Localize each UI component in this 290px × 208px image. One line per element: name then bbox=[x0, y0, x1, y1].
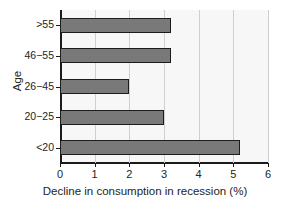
y-tick-label: 20−25 bbox=[25, 111, 55, 122]
y-tick-mark bbox=[56, 117, 60, 118]
bar bbox=[60, 18, 171, 33]
bar bbox=[60, 110, 164, 125]
x-tick-mark bbox=[199, 163, 200, 167]
x-tick-label: 6 bbox=[253, 168, 283, 180]
bar bbox=[60, 48, 171, 63]
x-tick-label: 4 bbox=[184, 168, 214, 180]
x-tick-mark bbox=[60, 163, 61, 167]
y-tick-mark bbox=[56, 25, 60, 26]
y-tick-mark bbox=[56, 148, 60, 149]
y-tick-label: 46−55 bbox=[25, 50, 55, 61]
gridline bbox=[268, 10, 269, 163]
bar bbox=[60, 79, 129, 94]
x-tick-mark bbox=[164, 163, 165, 167]
x-tick-label: 0 bbox=[45, 168, 75, 180]
x-tick-mark bbox=[268, 163, 269, 167]
bar-chart-figure: 0123456 <2020−2526−4546−55>55 Decline in… bbox=[0, 0, 290, 208]
y-tick-mark bbox=[56, 56, 60, 57]
x-tick-mark bbox=[95, 163, 96, 167]
x-tick-mark bbox=[129, 163, 130, 167]
y-axis-label: Age bbox=[11, 51, 23, 111]
y-tick-label: <20 bbox=[36, 142, 54, 153]
x-tick-label: 5 bbox=[218, 168, 248, 180]
x-tick-label: 3 bbox=[149, 168, 179, 180]
y-tick-label: 26−45 bbox=[25, 81, 55, 92]
x-tick-label: 2 bbox=[114, 168, 144, 180]
x-tick-mark bbox=[233, 163, 234, 167]
x-axis-label: Decline in consumption in recession (%) bbox=[0, 185, 290, 197]
bar bbox=[60, 140, 240, 155]
y-tick-mark bbox=[56, 87, 60, 88]
y-tick-label: >55 bbox=[36, 19, 54, 30]
x-tick-label: 1 bbox=[80, 168, 110, 180]
